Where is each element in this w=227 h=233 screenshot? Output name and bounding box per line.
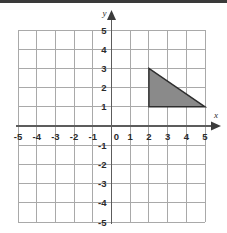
coordinate-plane-figure: -5-4-3-2-112345 54321-1-2-3-4-5 0 x y [0,0,227,233]
y-tick-label: -4 [98,197,107,208]
y-tick-label: -2 [98,159,106,170]
x-tick-label: -5 [14,131,23,142]
x-tick-label: 4 [184,131,190,142]
origin-label: 0 [114,131,119,142]
x-axis-label: x [213,110,218,120]
y-tick-label: -5 [98,217,107,228]
y-tick-label: 1 [101,101,107,112]
y-tick-label: -3 [98,178,106,189]
x-tick-label: 1 [128,131,134,142]
x-tick-label: 2 [146,131,151,142]
x-tick-label: 3 [165,131,170,142]
y-tick-label: 5 [101,25,107,36]
y-tick-label: 3 [101,63,106,74]
x-axis-arrow-icon [211,122,221,131]
x-tick-label: -1 [89,131,98,142]
coordinate-grid-svg: -5-4-3-2-112345 54321-1-2-3-4-5 0 x y [0,0,227,233]
y-tick-label: 4 [101,44,107,55]
y-tick-label: -1 [98,140,107,151]
x-tick-label: -4 [32,131,41,142]
plot-area: -5-4-3-2-112345 54321-1-2-3-4-5 0 x y [0,0,227,233]
x-tick-label: 5 [202,131,208,142]
y-tick-label: 2 [101,82,106,93]
y-axis-arrow-icon [107,10,116,20]
x-tick-label: -2 [70,131,78,142]
axis-arrowheads [107,10,221,131]
x-tick-label: -3 [51,131,59,142]
y-axis-label: y [102,8,107,18]
